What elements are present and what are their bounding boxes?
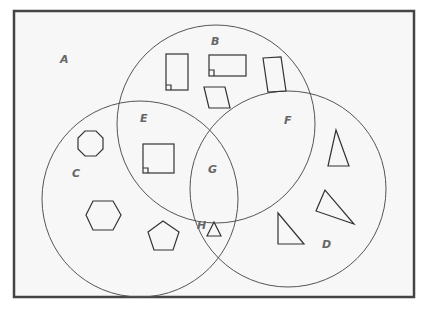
label-b: B <box>211 35 219 48</box>
diagram-frame <box>14 11 414 297</box>
label-e: E <box>140 112 148 125</box>
label-h: H <box>197 219 206 232</box>
label-d: D <box>322 238 331 251</box>
label-f: F <box>284 114 292 127</box>
label-g: G <box>208 163 217 176</box>
label-a: A <box>59 53 69 66</box>
venn-diagram: A B C D E F G H <box>0 0 428 309</box>
label-c: C <box>72 167 80 180</box>
